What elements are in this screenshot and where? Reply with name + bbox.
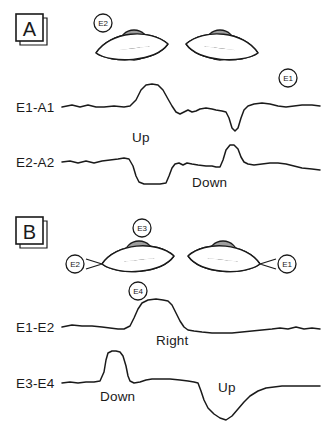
eog-figure: A E2 <box>0 0 323 430</box>
panel-a-label-box: A <box>16 14 47 45</box>
panel-a-left-eye <box>96 30 168 60</box>
panel-b-e2-label: E2 <box>70 260 80 269</box>
panel-b-annotation-right: Right <box>156 333 189 348</box>
panel-b-e4-label: E4 <box>133 287 143 296</box>
panel-a-trace-label-e2a2: E2-A2 <box>16 155 55 170</box>
panel-b-annotation-down: Down <box>100 389 135 404</box>
panel-a-e2-label: E2 <box>98 19 108 28</box>
panel-a-letter: A <box>23 18 37 40</box>
panel-b-electrode-e4: E4 <box>129 282 147 300</box>
panel-b-e3-label: E3 <box>137 224 147 233</box>
panel-b-e1-lead <box>260 259 276 269</box>
panel-a-trace-label-e1a1: E1-A1 <box>16 100 55 115</box>
panel-b-electrode-e3: E3 <box>133 219 151 237</box>
panel-b-letter: B <box>23 221 36 243</box>
panel-a-trace-e1a1 <box>62 84 320 131</box>
panel-a-e1-label: E1 <box>283 74 293 83</box>
panel-b-left-eye <box>102 241 174 272</box>
panel-b-right-eye <box>188 241 260 272</box>
panel-a-annotation-up: Up <box>132 130 150 145</box>
panel-b-trace-e3e4 <box>62 351 320 420</box>
panel-a-annotation-down: Down <box>192 175 227 190</box>
panel-a-right-eye <box>186 30 258 60</box>
panel-a: A E2 <box>16 14 320 190</box>
panel-a-electrode-e2: E2 <box>94 14 112 32</box>
panel-b-e2-lead <box>86 259 102 269</box>
panel-b-electrode-e1: E1 <box>278 255 296 273</box>
figure-canvas: A E2 <box>0 0 323 430</box>
panel-b-label-box: B <box>16 217 47 248</box>
panel-b-annotation-up: Up <box>218 380 236 395</box>
panel-b-trace-label-e3e4: E3-E4 <box>16 376 55 391</box>
panel-b-electrode-e2: E2 <box>66 255 84 273</box>
panel-b: B E3 <box>16 217 320 420</box>
panel-b-e1-label: E1 <box>282 260 292 269</box>
panel-a-trace-e2a2 <box>62 145 320 184</box>
panel-b-trace-label-e1e2: E1-E2 <box>16 320 55 335</box>
panel-b-trace-e1e2 <box>62 299 320 333</box>
panel-a-electrode-e1: E1 <box>279 69 297 87</box>
